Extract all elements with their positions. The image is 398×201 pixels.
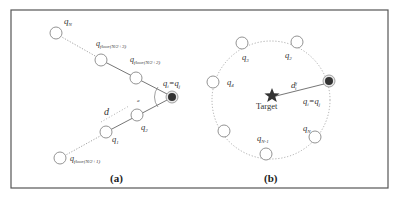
caption-b: (b) [264,172,278,185]
node-qN [50,27,62,39]
node-q-leader [168,93,176,101]
node-qN [309,131,321,143]
figure: qN qfloor(N/2+3) qfloor(N/2+2) qi=qj a d… [0,0,398,201]
target-label: Target [256,101,278,111]
node-q-floor2 [130,72,142,84]
node-q-left [218,125,230,137]
label-qi-qj: qi=qj [303,96,321,107]
node-q4 [207,76,219,88]
node-q2 [131,109,143,121]
node-q3 [236,37,248,49]
node-qN-1 [260,148,272,160]
node-q-floor1 [54,152,66,164]
node-q-leader [325,77,333,85]
node-q2 [291,36,303,48]
figure-frame [11,10,388,188]
label-qi-qj: qi=qj [163,78,181,89]
node-q-floor3 [95,54,107,66]
caption-a: (a) [110,172,123,185]
node-q1 [100,126,112,138]
